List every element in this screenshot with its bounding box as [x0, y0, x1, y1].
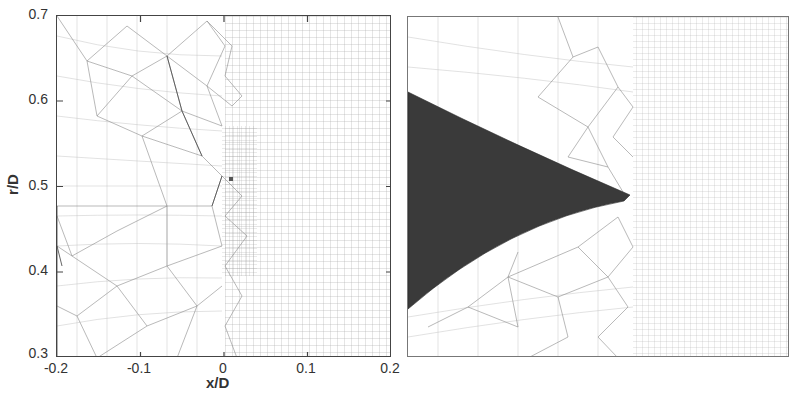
- structured-grid-region: [633, 17, 789, 357]
- y-tick-0.7: 0.7: [8, 6, 48, 22]
- x-tick--0.2: -0.2: [36, 360, 76, 376]
- x-axis-title: x/D: [206, 374, 229, 391]
- lip-marker: [229, 177, 233, 181]
- x-tick-0.1: 0.1: [286, 360, 326, 376]
- right-mesh-plot: [408, 17, 789, 357]
- left-mesh-panel: [56, 15, 391, 357]
- x-tick--0.1: -0.1: [119, 360, 159, 376]
- right-mesh-panel: [407, 16, 789, 357]
- y-axis-title: r/D: [4, 174, 21, 195]
- y-tick-0.4: 0.4: [8, 262, 48, 278]
- nozzle-lip-solid: [408, 92, 630, 309]
- x-tick-0.2: 0.2: [370, 360, 410, 376]
- y-tick-0.6: 0.6: [8, 91, 48, 107]
- left-mesh-plot: [57, 16, 391, 357]
- y-tick-0.3: 0.3: [8, 345, 48, 361]
